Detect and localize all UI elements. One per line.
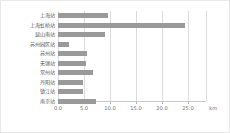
bar-row: 无锡站 <box>1 59 230 68</box>
category-label: 常州站 <box>0 68 55 77</box>
bar-row: 丹阳站 <box>1 78 230 87</box>
bar <box>58 32 105 37</box>
bar <box>58 80 83 85</box>
category-label: 丹阳站 <box>0 78 55 87</box>
x-axis-tick-label: 25.0 <box>173 105 203 111</box>
x-axis-unit-label: km <box>209 105 217 111</box>
category-label: 昆山南站 <box>0 30 55 39</box>
bar <box>58 70 93 75</box>
bar <box>58 42 69 47</box>
category-label: 上海虹桥站 <box>0 21 55 30</box>
bar-row: 昆山南站 <box>1 30 230 39</box>
bar <box>58 51 87 56</box>
category-label: 镇江站 <box>0 87 55 96</box>
bar-row: 南京站 <box>1 97 230 106</box>
bar <box>58 89 83 94</box>
bar <box>58 61 86 66</box>
category-label: 无锡站 <box>0 59 55 68</box>
bar-row: 上海站 <box>1 11 230 20</box>
category-label: 上海站 <box>0 11 55 20</box>
plot-area: 0.05.010.015.020.025.0km上海站上海虹桥站昆山南站苏州园区… <box>1 1 230 133</box>
category-label: 苏州园区站 <box>0 40 55 49</box>
bar-row: 苏州园区站 <box>1 40 230 49</box>
bar <box>58 23 185 28</box>
bar-chart: 0.05.010.015.020.025.0km上海站上海虹桥站昆山南站苏州园区… <box>0 0 230 133</box>
bar-row: 镇江站 <box>1 87 230 96</box>
bar <box>58 99 96 104</box>
bar-row: 常州站 <box>1 68 230 77</box>
bar <box>58 13 108 18</box>
bar-row: 苏州站 <box>1 49 230 58</box>
category-label: 南京站 <box>0 97 55 106</box>
category-label: 苏州站 <box>0 49 55 58</box>
bar-row: 上海虹桥站 <box>1 21 230 30</box>
